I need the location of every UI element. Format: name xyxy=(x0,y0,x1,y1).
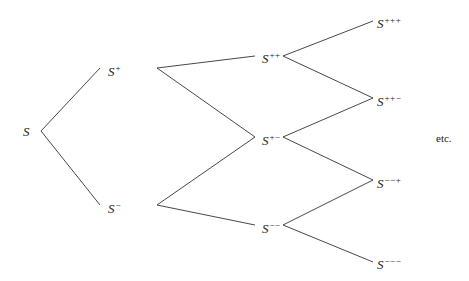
node-base-label: S xyxy=(377,257,384,272)
edge-Spp-Sppp xyxy=(283,21,373,56)
edge-Sm-Smm xyxy=(157,205,255,225)
node-Smmm: S−−− xyxy=(377,255,401,271)
node-Spp: S++ xyxy=(262,49,281,65)
edge-Spp-Sppm xyxy=(283,56,373,98)
node-base-label: S xyxy=(108,64,115,79)
node-Sppm: S++− xyxy=(377,92,401,108)
node-Smmp: S−−+ xyxy=(377,174,401,190)
node-base-label: S xyxy=(262,133,269,148)
edge-Smm-Smmm xyxy=(283,225,373,262)
node-Sp: S+ xyxy=(108,62,121,78)
tree-edges xyxy=(0,0,469,281)
node-Sppp: S+++ xyxy=(377,14,401,30)
node-superscript: −−+ xyxy=(385,175,402,185)
node-S: S xyxy=(23,125,30,138)
edge-Spm-Sppm xyxy=(283,98,373,137)
node-Spm: S+− xyxy=(262,131,281,147)
node-superscript: +− xyxy=(270,132,281,142)
node-Smm: S−− xyxy=(262,219,281,235)
node-superscript: −− xyxy=(270,220,281,230)
node-base-label: S xyxy=(23,124,30,139)
edge-Sm-Spm xyxy=(157,137,255,205)
edge-Smm-Smmp xyxy=(283,180,373,225)
node-base-label: S xyxy=(262,51,269,66)
node-base-label: S xyxy=(377,94,384,109)
node-superscript: + xyxy=(116,63,122,73)
edge-Sp-Spp xyxy=(157,56,255,68)
node-superscript: ++− xyxy=(385,93,402,103)
node-superscript: +++ xyxy=(385,15,402,25)
edge-S-Sp xyxy=(41,68,100,131)
node-base-label: S xyxy=(377,176,384,191)
node-superscript: −−− xyxy=(385,256,402,266)
node-superscript: − xyxy=(116,200,122,210)
node-Sm: S− xyxy=(108,199,121,215)
node-base-label: S xyxy=(377,16,384,31)
edge-Sp-Spm xyxy=(157,68,255,137)
node-superscript: ++ xyxy=(270,50,281,60)
node-base-label: S xyxy=(262,221,269,236)
node-base-label: S xyxy=(108,201,115,216)
continuation-label: etc. xyxy=(436,133,452,144)
edge-Spm-Smmp xyxy=(283,137,373,180)
edge-S-Sm xyxy=(41,131,100,205)
